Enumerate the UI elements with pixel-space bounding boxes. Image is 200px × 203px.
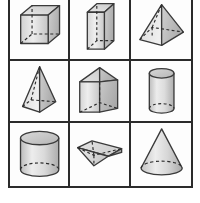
- cone-icon: [131, 123, 191, 186]
- tall-square-pyramid-icon: [10, 61, 68, 122]
- cell-cube: [10, 0, 70, 61]
- cell-cylinder-wide: [10, 123, 70, 186]
- triangular-prism-upright-icon: [70, 61, 128, 122]
- cell-triangular-prism-lying: [70, 123, 130, 186]
- cell-tall-square-pyramid: [10, 61, 70, 124]
- cell-rectangular-prism: [70, 0, 130, 61]
- cell-cylinder-tall: [131, 61, 191, 124]
- triangular-prism-lying-icon: [70, 123, 128, 186]
- solids-grid: [8, 0, 193, 188]
- cell-square-pyramid: [131, 0, 191, 61]
- cube-icon: [10, 0, 68, 59]
- cell-triangular-prism-upright: [70, 61, 130, 124]
- cylinder-wide-icon: [10, 123, 68, 186]
- square-pyramid-icon: [131, 0, 191, 59]
- solids-figure: [0, 0, 200, 203]
- rectangular-prism-icon: [70, 0, 128, 59]
- cylinder-tall-icon: [131, 61, 191, 122]
- cell-cone: [131, 123, 191, 186]
